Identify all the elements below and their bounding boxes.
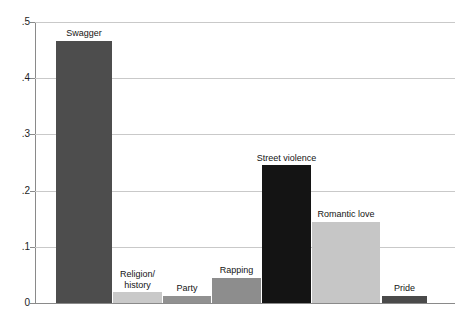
bar — [382, 296, 427, 303]
x-axis-line — [35, 303, 455, 304]
bar — [163, 296, 211, 303]
y-axis-tick-mark — [30, 247, 35, 248]
bar-label: Pride — [368, 283, 442, 294]
y-axis-tick-mark — [30, 22, 35, 23]
y-axis-tick-label: 0 — [4, 298, 30, 308]
bar — [262, 165, 311, 303]
y-axis-tick-label: .1 — [4, 242, 30, 252]
y-axis-tick: .4 — [0, 73, 30, 83]
y-axis-tick: 0 — [0, 298, 30, 308]
y-axis-tick: .3 — [0, 129, 30, 139]
bar — [113, 292, 162, 303]
y-axis-tick-label: .5 — [4, 17, 30, 27]
gridline — [35, 22, 455, 23]
bar-chart: 0.1.2.3.4.5 SwaggerReligion/ historyPart… — [0, 0, 463, 326]
bar-label: Swagger — [47, 28, 121, 39]
bar-label: Party — [150, 283, 224, 294]
bar-label: Rapping — [200, 265, 274, 276]
y-axis-tick-mark — [30, 134, 35, 135]
y-axis-tick-mark — [30, 78, 35, 79]
bar-label: Street violence — [250, 153, 324, 164]
y-axis-tick: .1 — [0, 242, 30, 252]
bar — [56, 41, 112, 303]
y-axis-tick-mark — [30, 303, 35, 304]
y-axis-tick: .5 — [0, 17, 30, 27]
bar-label: Romantic love — [309, 209, 383, 220]
y-axis-line — [35, 22, 36, 304]
y-axis-tick-label: .2 — [4, 186, 30, 196]
y-axis-tick-label: .4 — [4, 73, 30, 83]
y-axis-tick-label: .3 — [4, 129, 30, 139]
y-axis-tick: .2 — [0, 186, 30, 196]
y-axis-tick-mark — [30, 191, 35, 192]
